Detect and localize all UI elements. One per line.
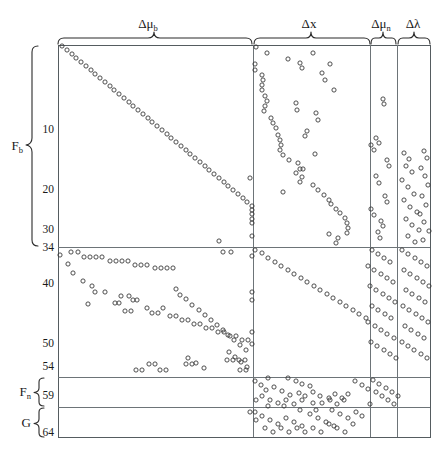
sparsity-dot: [246, 338, 250, 342]
sparsity-dot: [153, 266, 157, 270]
sparsity-dot: [265, 51, 269, 55]
sparsity-dot: [330, 408, 334, 412]
row-tick-label: 20: [43, 183, 55, 195]
sparsity-dot: [188, 152, 192, 156]
sparsity-dot: [221, 250, 225, 254]
sparsity-dot: [260, 88, 264, 92]
sparsity-dot: [400, 340, 404, 344]
sparsity-dot: [248, 410, 252, 414]
sparsity-dot: [422, 149, 426, 153]
sparsity-dot: [253, 62, 257, 66]
sparsity-dot: [384, 386, 388, 390]
row-tick-label: 30: [43, 223, 55, 235]
sparsity-dot: [240, 338, 244, 342]
sparsity-dot: [93, 72, 97, 76]
sparsity-dot: [426, 183, 430, 187]
sparsity-dot: [100, 255, 104, 259]
sparsity-dot: [76, 250, 80, 254]
sparsity-dot: [370, 304, 374, 308]
sparsity-dot: [141, 112, 145, 116]
sparsity-dot: [417, 228, 421, 232]
sparsity-dot: [244, 348, 248, 352]
sparsity-dot: [383, 312, 387, 316]
sparsity-dot: [372, 148, 376, 152]
sparsity-dot: [281, 153, 285, 157]
sparsity-dot: [360, 383, 364, 387]
sparsity-dot: [263, 94, 267, 98]
sparsity-dot: [264, 388, 268, 392]
brace-dmu-n-icon: [371, 32, 396, 44]
sparsity-dot: [117, 92, 121, 96]
sparsity-dot: [404, 164, 408, 168]
sparsity-dot: [311, 390, 315, 394]
sparsity-dot: [284, 416, 288, 420]
sparsity-dot: [382, 102, 386, 106]
sparsity-dot: [311, 401, 315, 405]
sparsity-dot: [387, 164, 391, 168]
sparsity-dot: [119, 294, 123, 298]
sparsity-dot: [292, 272, 296, 276]
sparsity-dot: [410, 223, 414, 227]
sparsity-dot: [279, 426, 283, 430]
sparsity-dot: [406, 185, 410, 189]
sparsity-dot: [351, 422, 355, 426]
sparsity-dot: [389, 316, 393, 320]
sparsity-dot: [346, 392, 350, 396]
sparsity-dot: [123, 309, 127, 313]
sparsity-dot: [336, 236, 340, 240]
sparsity-dot: [272, 385, 276, 389]
sparsity-dot: [354, 410, 358, 414]
sparsity-dot: [108, 84, 112, 88]
sparsity-dot: [260, 394, 264, 398]
sparsity-dot: [197, 308, 201, 312]
sparsity-dot: [422, 220, 426, 224]
sparsity-dot: [381, 224, 385, 228]
sparsity-dot: [164, 368, 168, 372]
sparsity-dot: [300, 175, 304, 179]
sparsity-dot: [203, 164, 207, 168]
sparsity-dot: [311, 426, 315, 430]
sparsity-dot: [300, 424, 304, 428]
sparsity-dot: [127, 100, 131, 104]
sparsity-dot: [273, 260, 277, 264]
brace-fb-icon: [26, 46, 38, 246]
sparsity-dot: [94, 255, 98, 259]
sparsity-dot: [311, 51, 315, 55]
row-tick-label: 59: [43, 389, 55, 401]
row-tick-labels: 102030344050545964: [43, 123, 55, 438]
sparsity-dot: [421, 238, 425, 242]
sparsity-dot: [179, 144, 183, 148]
sparsity-dot: [300, 398, 304, 402]
sparsity-dot: [424, 203, 428, 207]
sparsity-dot: [407, 308, 411, 312]
sparsity-dot: [298, 61, 302, 65]
sparsity-dot: [376, 308, 380, 312]
sparsity-dot: [69, 250, 73, 254]
sparsity-dot: [269, 116, 273, 120]
sparsity-dot: [376, 230, 380, 234]
sparsity-dot: [276, 401, 280, 405]
row-tick-label: 64: [43, 426, 55, 438]
spy-plot-svg: Δμb Δx Δμn Δλ Fb Fn G 102030344050545964: [0, 0, 447, 463]
sparsity-dot: [98, 76, 102, 80]
sparsity-dot: [316, 188, 320, 192]
sparsity-dot: [292, 420, 296, 424]
sparsity-dot: [308, 412, 312, 416]
sparsity-dot: [253, 68, 257, 72]
sparsity-dot: [194, 361, 198, 365]
matrix-sparsity-figure: Δμb Δx Δμn Δλ Fb Fn G 102030344050545964: [0, 0, 447, 463]
sparsity-dot: [165, 266, 169, 270]
sparsity-dot: [260, 251, 264, 255]
sparsity-dot: [305, 129, 309, 133]
sparsity-dot: [174, 314, 178, 318]
sparsity-dot: [134, 368, 138, 372]
sparsity-dot: [386, 398, 390, 402]
sparsity-dot: [383, 194, 387, 198]
sparsity-dot: [287, 430, 291, 434]
sparsity-dot: [425, 264, 429, 268]
sparsity-dot: [122, 96, 126, 100]
sparsity-dot: [90, 284, 94, 288]
sparsity-dot: [297, 391, 301, 395]
sparsity-dot: [84, 64, 88, 68]
sparsity-dot: [71, 271, 75, 275]
